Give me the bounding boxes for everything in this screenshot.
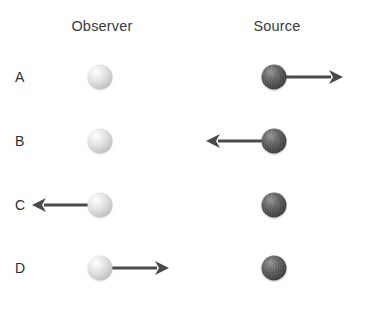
motion-arrow-right-observer-d: [111, 258, 169, 278]
motion-arrow-left-observer-c: [32, 195, 90, 215]
column-header-observer: Observer: [71, 18, 132, 34]
source-sphere-d: [262, 256, 287, 281]
column-header-source: Source: [253, 18, 300, 34]
motion-arrow-right-source-a: [285, 67, 343, 87]
motion-arrow-left-source-b: [206, 131, 264, 151]
observer-sphere-d: [88, 256, 113, 281]
row-label-a: A: [15, 69, 24, 85]
source-sphere-c: [262, 193, 287, 218]
source-sphere-a: [262, 65, 287, 90]
observer-sphere-a: [88, 65, 113, 90]
source-sphere-b: [262, 129, 287, 154]
doppler-effect-diagram: Observer Source ABCD: [0, 0, 367, 310]
row-label-b: B: [15, 133, 24, 149]
observer-sphere-c: [88, 193, 113, 218]
row-label-d: D: [15, 260, 25, 276]
row-label-c: C: [15, 197, 25, 213]
observer-sphere-b: [88, 129, 113, 154]
